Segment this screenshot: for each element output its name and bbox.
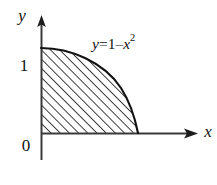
y-tick-label-1: 1 bbox=[20, 56, 29, 75]
equation-rhs-lead: 1– bbox=[108, 35, 124, 52]
equation-rhs-variable: x bbox=[122, 35, 130, 52]
math-figure: y x 1 0 y=1–x2 bbox=[0, 0, 217, 185]
equation-equals: = bbox=[99, 35, 108, 52]
curve-equation-label: y=1–x2 bbox=[90, 32, 135, 51]
x-axis-label: x bbox=[203, 122, 212, 141]
svg-text:y=1–x2: y=1–x2 bbox=[90, 32, 135, 51]
figure-container: y x 1 0 y=1–x2 bbox=[0, 0, 217, 185]
equation-variable: y bbox=[90, 35, 99, 52]
y-axis-label: y bbox=[16, 6, 26, 25]
equation-exponent: 2 bbox=[130, 32, 135, 43]
origin-label: 0 bbox=[22, 136, 31, 155]
